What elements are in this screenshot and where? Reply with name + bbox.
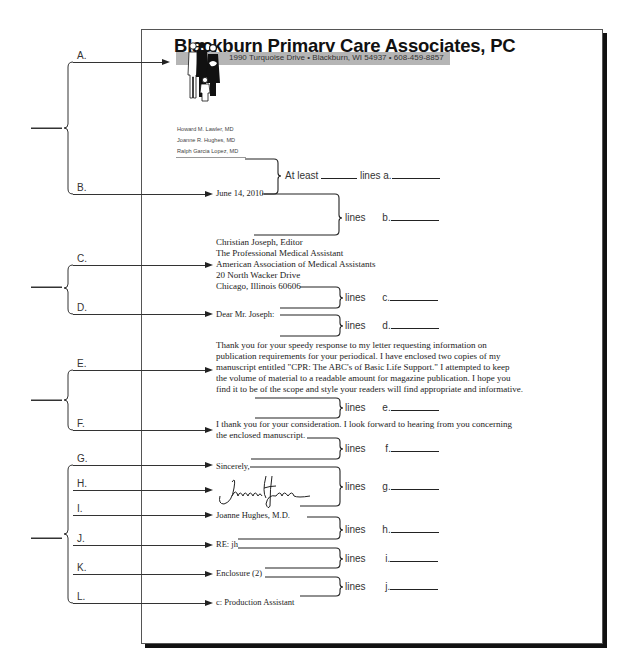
spacing-question-a: At least lines a. <box>285 170 440 181</box>
spacing-question-i: lines i. <box>345 553 438 564</box>
group-answer-blank-ef[interactable] <box>31 400 62 401</box>
question-letter: d. <box>382 320 390 331</box>
group-answer-blank-cd[interactable] <box>31 287 62 288</box>
answer-blank-a[interactable] <box>392 177 440 179</box>
spacing-question-b: lines b. <box>345 212 439 223</box>
answer-blank-d[interactable] <box>391 327 439 329</box>
question-letter: a. <box>383 170 391 181</box>
group-answer-blank-gl[interactable] <box>31 538 62 539</box>
answer-blank-e[interactable] <box>391 409 439 411</box>
answer-blank-i[interactable] <box>390 560 438 562</box>
spacing-question-c: lines c. <box>345 292 438 303</box>
spacing-question-j: lines j. <box>345 581 438 592</box>
spacing-question-e: lines e. <box>345 402 439 413</box>
lines-label: lines <box>345 581 366 592</box>
question-letter: b. <box>382 212 390 223</box>
question-letter: g. <box>382 481 390 492</box>
spacing-question-d: lines d. <box>345 320 439 331</box>
lines-label: lines <box>345 320 366 331</box>
answer-blank-count-a[interactable] <box>321 177 357 179</box>
lines-label: lines <box>345 402 366 413</box>
question-letter: i. <box>385 553 390 564</box>
at-least-label: At least <box>285 170 318 181</box>
answer-blank-g[interactable] <box>391 488 439 490</box>
question-letter: j. <box>385 581 390 592</box>
lines-label: lines <box>345 212 366 223</box>
group-answer-blank-ab[interactable] <box>31 128 62 129</box>
lines-label: lines <box>345 443 366 454</box>
lines-label: lines <box>345 524 366 535</box>
lines-label: lines <box>360 170 381 181</box>
spacing-question-g: lines g. <box>345 481 439 492</box>
question-letter: f. <box>385 443 391 454</box>
answer-blank-c[interactable] <box>390 299 438 301</box>
answer-blank-h[interactable] <box>391 531 439 533</box>
lines-label: lines <box>345 481 366 492</box>
lines-label: lines <box>345 553 366 564</box>
spacing-question-f: lines f. <box>345 443 439 454</box>
question-letter: e. <box>382 402 390 413</box>
answer-blank-f[interactable] <box>391 450 439 452</box>
question-letter: c. <box>382 292 390 303</box>
lines-label: lines <box>345 292 366 303</box>
spacing-brackets <box>0 0 627 669</box>
spacing-question-h: lines h. <box>345 524 439 535</box>
answer-blank-j[interactable] <box>390 588 438 590</box>
question-letter: h. <box>382 524 390 535</box>
answer-blank-b[interactable] <box>391 219 439 221</box>
